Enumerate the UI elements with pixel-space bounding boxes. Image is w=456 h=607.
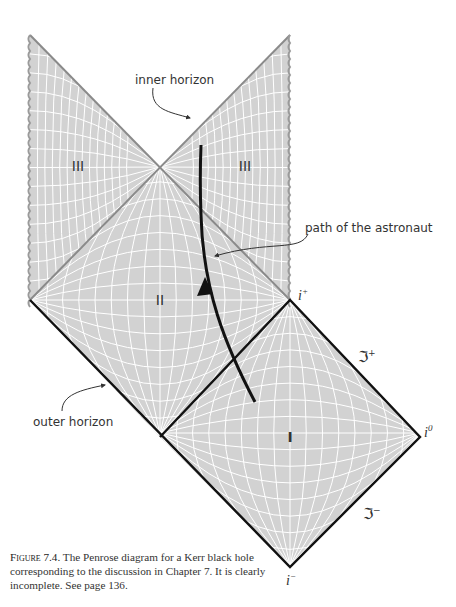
- penrose-diagram: I II III III inner horizon outer horizon…: [0, 0, 456, 607]
- astronaut-path-label: path of the astronaut: [305, 221, 433, 235]
- figure-number: Figure 7.4.: [10, 551, 60, 563]
- i-plus-label: i+: [298, 286, 308, 303]
- region-III-left-label: III: [72, 158, 84, 174]
- inner-horizon-label: inner horizon: [135, 73, 214, 87]
- region-I-label: I: [287, 429, 292, 445]
- inner-horizon-leader: [153, 88, 190, 118]
- scri-minus-label: ℑ−: [363, 505, 381, 523]
- figure-caption: Figure 7.4. The Penrose diagram for a Ke…: [10, 550, 270, 592]
- region-III-right-label: III: [239, 158, 251, 174]
- scri-plus-label: ℑ+: [358, 348, 376, 366]
- i-minus-label: i−: [286, 571, 296, 588]
- region-II-label: II: [156, 292, 164, 308]
- i-zero-label: i0: [424, 423, 433, 440]
- singularity-left: [29, 35, 31, 307]
- outer-horizon-leader: [62, 385, 105, 411]
- outer-horizon-label: outer horizon: [33, 415, 113, 429]
